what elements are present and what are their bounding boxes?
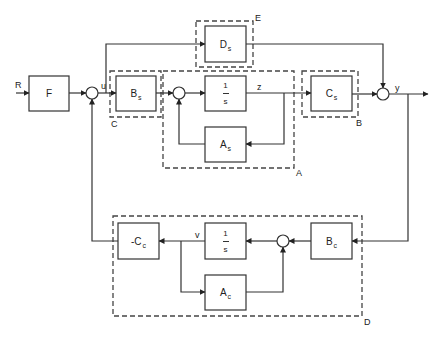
block-diagram: R u z y v E C A B D F Bs 1s As Ds Cs -Cc… xyxy=(0,0,440,341)
wire-as-to-sum2 xyxy=(179,99,205,144)
signal-label-u: u xyxy=(101,82,106,91)
block-neg-cc-label: -Cc xyxy=(118,223,159,259)
signal-label-z: z xyxy=(257,83,262,92)
block-integrator-plant-label: 1s xyxy=(205,76,246,111)
group-label-a: A xyxy=(296,169,302,178)
block-ac-label: Ac xyxy=(205,275,246,310)
summing-junction-1 xyxy=(86,87,98,99)
block-as-label: As xyxy=(205,127,246,162)
summing-junction-3 xyxy=(377,88,389,100)
block-f-label: F xyxy=(29,76,69,111)
signal-label-y: y xyxy=(395,84,400,93)
signal-label-v: v xyxy=(195,231,200,240)
group-label-e: E xyxy=(255,14,261,23)
summing-junction-2 xyxy=(173,87,185,99)
wire-y-to-bc xyxy=(352,94,408,241)
block-ds-label: Ds xyxy=(205,26,246,62)
summing-junction-4 xyxy=(277,235,289,247)
signal-label-r: R xyxy=(15,81,22,90)
block-cs-label: Cs xyxy=(311,76,352,111)
wire-v-to-ac xyxy=(181,241,205,292)
wire-z-to-as xyxy=(246,93,284,144)
block-bc-label: Bc xyxy=(311,223,352,259)
block-integrator-controller-label: 1s xyxy=(205,223,246,259)
group-label-d: D xyxy=(364,318,371,327)
block-bs-label: Bs xyxy=(116,76,156,111)
wire-ac-to-sum4 xyxy=(246,247,283,292)
group-label-b: B xyxy=(356,119,362,128)
group-label-c: C xyxy=(111,120,118,129)
